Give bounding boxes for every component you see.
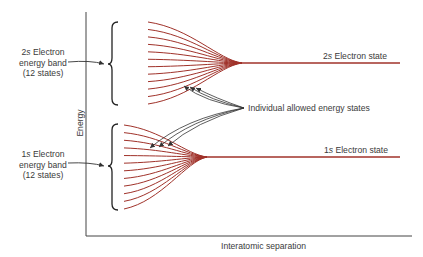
label-2s-energy-band: 2s Electron energy band (12 states)	[8, 47, 78, 79]
label-1s-energy-band: 1s Electron energy band (12 states)	[8, 149, 78, 181]
x-axis-label: Interatomic separation	[221, 241, 306, 252]
annotation-arrows	[150, 86, 244, 148]
curves-2s-states	[148, 22, 242, 104]
energy-band-diagram: 2s Electron energy band (12 states) 1s E…	[0, 0, 423, 257]
label-2s-electron-state: 2s Electron state	[323, 51, 387, 62]
label-text: Electron	[31, 149, 65, 159]
label-text: Electron state	[333, 145, 388, 155]
label-text: Electron state	[332, 51, 387, 61]
y-axis-label: Energy	[75, 109, 85, 136]
label-text: Electron	[31, 47, 65, 57]
diagram-canvas	[0, 0, 423, 257]
label-1s-electron-state: 1s Electron state	[324, 145, 388, 156]
label-text: energy band	[8, 160, 78, 171]
label-text: (12 states)	[8, 170, 78, 181]
label-individual-energy-states: Individual allowed energy states	[248, 103, 370, 114]
curves-1s-states	[124, 125, 207, 209]
energy-state-curve	[124, 157, 207, 201]
label-text: energy band	[8, 58, 78, 69]
brace-1s-band	[108, 124, 118, 210]
brace-2s-band	[108, 22, 118, 105]
label-text: (12 states)	[8, 68, 78, 79]
